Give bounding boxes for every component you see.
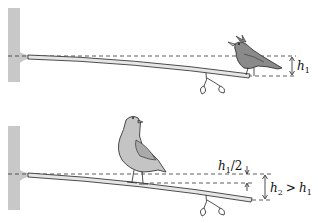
branch-bottom (28, 173, 252, 202)
tree-trunk (8, 126, 20, 210)
label-h1: h1 (297, 59, 310, 75)
bottom-panel: h1/2 h2>h1 (8, 116, 312, 216)
dimension-h1 (290, 57, 295, 75)
small-bird-icon (228, 35, 282, 76)
label-h2-gt-h1: h2>h1 (270, 181, 312, 197)
branch-top (28, 55, 250, 78)
beam-deflection-diagram: h1 (0, 0, 318, 223)
dimension-h2 (263, 175, 268, 199)
label-h1-half: h1/2 (218, 159, 243, 175)
top-panel: h1 (8, 8, 310, 94)
leaf-twig-bottom (200, 195, 224, 216)
tree-trunk (8, 8, 20, 82)
dimension-h1-half (245, 166, 249, 191)
leaf-twig-top (200, 73, 224, 94)
